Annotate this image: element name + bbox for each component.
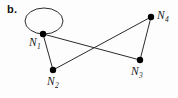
node-label-n1-text: N <box>29 36 37 48</box>
node-label-n3-text: N <box>131 65 139 77</box>
edge-n2-n4 <box>53 17 151 70</box>
node-label-n1-subscript: 1 <box>37 42 41 51</box>
node-label-n3-subscript: 3 <box>139 71 143 80</box>
node-label-n4: N4 <box>157 10 168 22</box>
node-label-n2-text: N <box>47 75 55 87</box>
node-label-n3: N3 <box>131 66 142 78</box>
node-n4 <box>148 14 154 20</box>
edge-n1-n3 <box>43 34 140 60</box>
node-label-n4-text: N <box>157 9 165 21</box>
edge-n1-n2 <box>43 34 53 70</box>
node-label-n2-subscript: 2 <box>55 81 59 90</box>
figure-panel: b. N1 N2 N3 N4 <box>0 0 178 98</box>
edge-group <box>25 8 151 70</box>
panel-label: b. <box>7 3 17 15</box>
node-label-n2: N2 <box>47 76 58 88</box>
node-label-n1: N1 <box>29 37 40 49</box>
node-n2 <box>50 67 56 73</box>
edge-n3-n4 <box>140 17 151 60</box>
node-label-n4-subscript: 4 <box>165 15 169 24</box>
graph-canvas <box>0 0 178 98</box>
node-n3 <box>137 57 143 63</box>
node-n1 <box>40 31 46 37</box>
self-loop-edge-n1 <box>25 8 63 34</box>
